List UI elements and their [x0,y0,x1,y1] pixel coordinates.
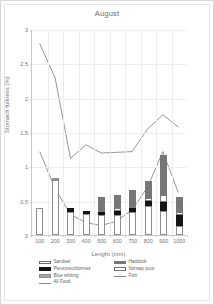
y-tick-mark [30,167,32,168]
x-tick-label: 800 [144,238,153,244]
legend-row: PleuronectiformesNorway pout [39,267,189,272]
legend-item: Blue whiting [39,274,114,279]
bar-segment-haddock[interactable] [129,190,136,205]
legend-label: All Food [54,280,71,285]
x-tick-mark [79,235,80,237]
x-tick-label: 500 [97,238,106,244]
bar-stack[interactable] [160,155,167,235]
legend-item: Sandeel [39,260,114,265]
bar-stack[interactable] [83,211,90,235]
legend-label: Pleuronectiformes [54,267,91,272]
x-tick-label: 600 [113,238,122,244]
x-tick-mark [48,235,49,237]
x-tick-label: 400 [82,238,91,244]
x-tick-label: 1000 [173,238,185,244]
legend-label: Blue whiting [54,274,79,279]
chart-title: August [1,9,213,18]
bar-segment-haddock[interactable] [176,197,183,211]
legend-label: Haddock [129,260,147,265]
bar-stack[interactable] [52,178,59,235]
bar-segment-haddock[interactable] [145,181,152,198]
bar-stack[interactable] [98,197,105,235]
y-tick-label: 0 [25,233,28,239]
chart-legend: SandeelHaddockPleuronectiformesNorway po… [39,260,189,287]
bar-stack[interactable] [176,197,183,235]
legend-swatch-icon [39,281,51,285]
bar-segment-sandeel[interactable] [52,180,59,235]
x-tick-mark [94,235,95,237]
gridline-vertical [156,30,157,235]
bar-stack[interactable] [67,208,74,235]
legend-item: Norway pout [114,267,189,272]
gridline-vertical [79,30,80,235]
bar-segment-sandeel[interactable] [36,208,43,235]
gridline-vertical [110,30,111,235]
gridline-vertical [172,30,173,235]
y-tick-mark [30,202,32,203]
legend-label: Norway pout [129,267,155,272]
gridline-vertical [94,30,95,235]
legend-row: SandeelHaddock [39,260,189,265]
legend-swatch-icon [39,274,51,278]
x-tick-label: 200 [51,238,60,244]
bar-segment-sandeel[interactable] [114,215,121,235]
bar-stack[interactable] [129,190,136,235]
bar-segment-sandeel[interactable] [129,212,136,235]
legend-row: All Food [39,280,189,285]
bar-stack[interactable] [36,208,43,235]
bar-segment-pleuro[interactable] [160,202,167,211]
x-tick-label: 300 [66,238,75,244]
x-tick-mark [110,235,111,237]
bar-segment-haddock[interactable] [114,195,121,208]
y-tick-label: 2 [25,96,28,102]
bar-segment-sandeel[interactable] [67,212,74,235]
bar-segment-pleuro[interactable] [176,215,183,226]
x-tick-label: 100 [35,238,44,244]
plot-area: 00.511.522.53100200300400500600700800900… [31,30,186,236]
chart-figure: August Stomach fullness (%) 00.511.522.5… [0,0,214,305]
y-tick-label: 0.5 [20,199,28,205]
legend-row: Blue whitingFish [39,274,189,279]
x-tick-label: 700 [128,238,137,244]
legend-item: Fish [114,274,189,279]
bar-segment-haddock[interactable] [160,155,167,195]
legend-label: Sandeel [54,260,71,265]
legend-swatch-icon [114,274,126,278]
gridline-vertical [141,30,142,235]
legend-swatch-icon [39,261,51,265]
y-tick-label: 3 [25,27,28,33]
gridline-vertical [125,30,126,235]
y-tick-label: 2.5 [20,61,28,67]
bar-segment-sandeel[interactable] [176,226,183,235]
x-tick-mark [63,235,64,237]
y-tick-mark [30,99,32,100]
gridline-vertical [63,30,64,235]
gridline-vertical [48,30,49,235]
bar-segment-haddock[interactable] [98,197,105,210]
y-tick-mark [30,30,32,31]
bar-segment-sandeel[interactable] [145,206,152,235]
legend-label: Fish [129,274,138,279]
legend-item: Pleuronectiformes [39,267,114,272]
y-tick-mark [30,236,32,237]
bar-segment-norwaypout[interactable] [160,195,167,202]
x-tick-mark [156,235,157,237]
bar-segment-sandeel[interactable] [83,214,90,235]
x-tick-label: 900 [159,238,168,244]
x-tick-mark [141,235,142,237]
y-tick-mark [30,133,32,134]
x-axis-title: Lenght (mm) [31,251,186,257]
bar-stack[interactable] [114,195,121,235]
x-tick-mark [187,235,188,237]
bar-segment-sandeel[interactable] [160,211,167,235]
y-axis-title: Stomach fullness (%) [4,76,10,133]
y-tick-mark [30,64,32,65]
bar-segment-sandeel[interactable] [98,215,105,235]
legend-swatch-icon [114,267,126,271]
bar-stack[interactable] [145,181,152,235]
legend-swatch-icon [39,267,51,271]
y-tick-label: 1 [25,164,28,170]
legend-item: All Food [39,280,114,285]
y-tick-label: 1.5 [20,130,28,136]
legend-swatch-icon [114,261,126,265]
